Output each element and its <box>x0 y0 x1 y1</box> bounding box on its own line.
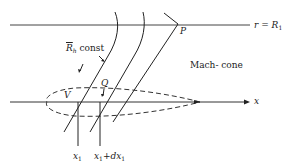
x1-dx1-label: x1+dx1 <box>94 152 125 162</box>
R-subscript: 1 <box>278 24 282 31</box>
volume-v-label: V <box>64 91 71 100</box>
radius-label: r = R1 <box>254 21 282 31</box>
mach-cone-upper <box>164 13 178 24</box>
mach-cone-line <box>113 24 178 122</box>
r-symbol: r <box>254 20 258 30</box>
dx-subscript: 1 <box>121 155 125 162</box>
x1-label: x1 <box>73 152 82 162</box>
trailing-edge-mark <box>194 100 200 104</box>
point-q-label: Q <box>101 79 108 88</box>
x1-subscript: 1 <box>78 155 82 162</box>
x-axis-arrow-icon <box>244 100 250 105</box>
rh-symbol: R <box>66 43 73 53</box>
rh-pointer-arrow-icon <box>101 59 105 62</box>
rh-const-curve-1 <box>64 12 118 132</box>
rh-subscript: h <box>73 47 77 54</box>
dx-symbol: dx <box>110 151 121 161</box>
rh-const-text: const <box>80 43 105 53</box>
mach-cone-label: Mach- cone <box>190 61 243 70</box>
equals-sign: = <box>261 20 269 30</box>
diagram-canvas <box>0 0 292 165</box>
point-p-label: P <box>180 27 186 36</box>
x-axis-label: x <box>254 97 259 106</box>
rh-const-label: Rh const <box>66 44 104 54</box>
